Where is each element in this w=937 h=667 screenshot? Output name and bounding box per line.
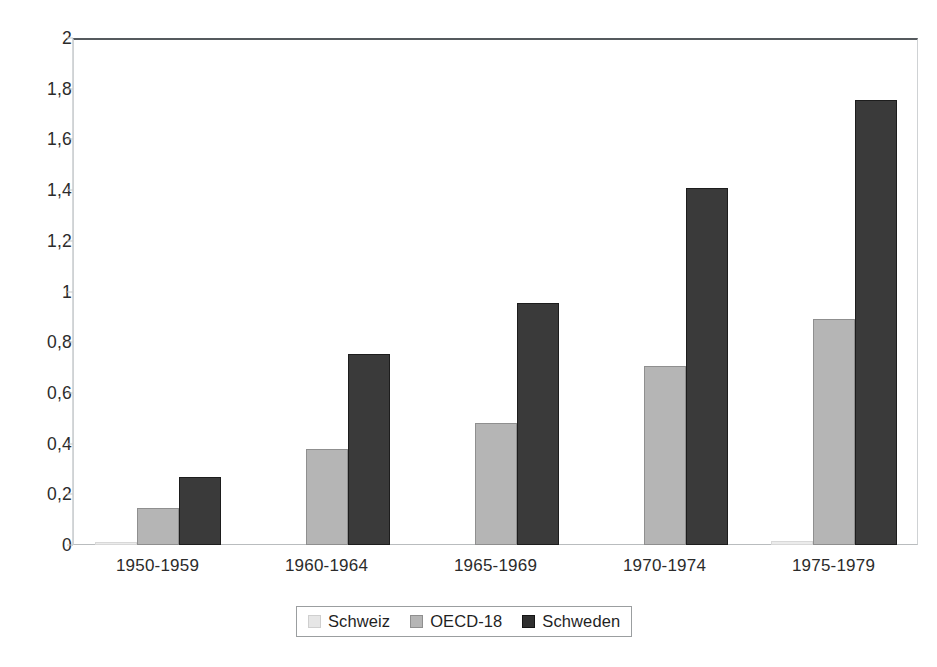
x-axis-tick-label: 1975-1979 [792, 556, 875, 576]
bar-oecd-18-1965-1969 [475, 423, 517, 545]
y-axis-tick-label: 0 [10, 535, 72, 556]
y-axis-tick-label: 1,4 [10, 180, 72, 201]
bar-schweden-1965-1969 [517, 303, 559, 545]
y-axis-tick-mark [67, 240, 73, 241]
y-axis-tick-label: 0,4 [10, 433, 72, 454]
y-axis-tick-label: 1,8 [10, 78, 72, 99]
legend-item-schweiz[interactable]: Schweiz [308, 612, 390, 631]
bar-chart: 00,20,40,60,811,21,41,61,82 1950-1959196… [0, 0, 937, 667]
y-axis-tick-mark [67, 190, 73, 191]
y-axis-tick-mark [67, 545, 73, 546]
y-axis: 00,20,40,60,811,21,41,61,82 [0, 0, 72, 667]
y-axis-tick-label: 0,8 [10, 332, 72, 353]
x-axis: 1950-19591960-19641965-19691970-19741975… [73, 556, 918, 586]
schweiz-swatch-icon [308, 615, 321, 628]
schweden-swatch-icon [522, 615, 535, 628]
legend-item-schweden[interactable]: Schweden [522, 612, 620, 631]
bar-schweden-1950-1959 [179, 477, 221, 545]
y-axis-tick-label: 0,6 [10, 382, 72, 403]
y-axis-tick-mark [67, 494, 73, 495]
legend-label-oecd-18: OECD-18 [430, 612, 502, 631]
legend-label-schweiz: Schweiz [328, 612, 390, 631]
bar-schweden-1970-1974 [686, 188, 728, 545]
oecd-18-swatch-icon [410, 615, 423, 628]
y-axis-tick-mark [67, 139, 73, 140]
bar-schweiz-1950-1959 [95, 542, 137, 545]
y-axis-tick-label: 0,2 [10, 484, 72, 505]
bar-oecd-18-1975-1979 [813, 319, 855, 545]
x-axis-tick-label: 1965-1969 [454, 556, 537, 576]
y-axis-tick-mark [67, 38, 73, 39]
y-axis-tick-label: 1 [10, 281, 72, 302]
bar-oecd-18-1960-1964 [306, 449, 348, 545]
legend-label-schweden: Schweden [542, 612, 620, 631]
x-axis-tick-label: 1970-1974 [623, 556, 706, 576]
bar-oecd-18-1950-1959 [137, 508, 179, 545]
bar-schweiz-1975-1979 [771, 541, 813, 545]
y-axis-tick-label: 2 [10, 28, 72, 49]
y-axis-tick-mark [67, 342, 73, 343]
y-axis-tick-label: 1,6 [10, 129, 72, 150]
y-axis-tick-mark [67, 443, 73, 444]
x-axis-tick-label: 1960-1964 [285, 556, 368, 576]
bar-schweden-1975-1979 [855, 100, 897, 545]
y-axis-tick-mark [67, 291, 73, 292]
y-axis-tick-label: 1,2 [10, 230, 72, 251]
bar-schweden-1960-1964 [348, 354, 390, 545]
y-axis-tick-mark [67, 88, 73, 89]
x-axis-tick-label: 1950-1959 [116, 556, 199, 576]
bars-layer [73, 38, 918, 545]
y-axis-tick-mark [67, 392, 73, 393]
bar-oecd-18-1970-1974 [644, 366, 686, 545]
legend-item-oecd-18[interactable]: OECD-18 [410, 612, 502, 631]
chart-legend: Schweiz OECD-18 Schweden [296, 606, 632, 637]
